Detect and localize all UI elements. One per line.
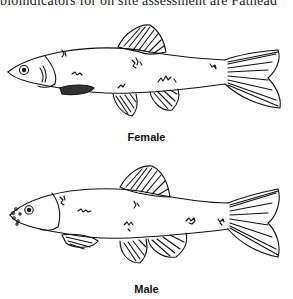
male-fish-illustration (0, 163, 293, 278)
male-label: Male (0, 283, 293, 295)
body-text-line: bioindicators for on site assessment are… (0, 0, 293, 7)
female-fish-illustration (0, 22, 293, 132)
female-label: Female (0, 131, 293, 143)
